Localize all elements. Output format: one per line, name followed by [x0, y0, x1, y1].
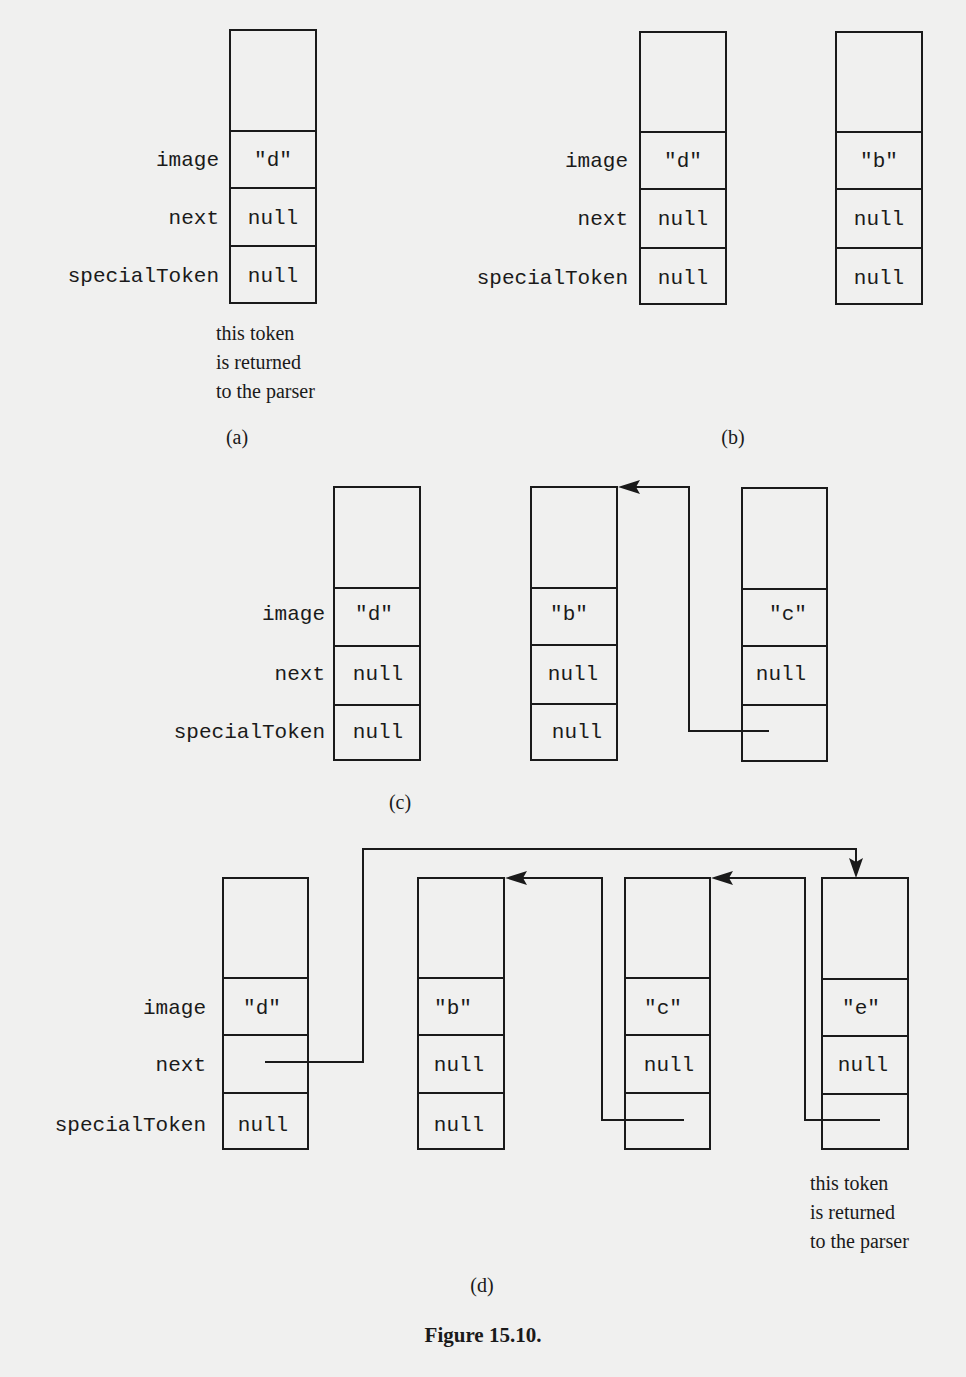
returned-token-note: this token is returned to the parser [216, 322, 315, 403]
token-next-value: null [644, 1054, 694, 1077]
field-label-image: image [262, 603, 325, 626]
field-label-specialtoken: specialToken [55, 1114, 206, 1137]
textbook-page: "d" null null image next specialToken th… [0, 0, 966, 1377]
token-specialtoken-value: null [552, 721, 602, 744]
token-box-c-c: "c" null [742, 488, 827, 761]
field-label-next: next [169, 207, 219, 230]
panel-caption: (d) [470, 1274, 493, 1297]
token-box-a-d: "d" null null [230, 30, 316, 303]
field-label-next: next [578, 208, 628, 231]
token-box-d-b: "b" null null [418, 878, 504, 1149]
token-next-value: null [248, 207, 298, 230]
token-next-value: null [658, 208, 708, 231]
token-specialtoken-value: null [854, 267, 904, 290]
field-label-specialtoken: specialToken [68, 265, 219, 288]
token-box-d-d: "d" null [223, 878, 308, 1149]
token-next-value: null [838, 1054, 888, 1077]
token-specialtoken-value: null [248, 265, 298, 288]
panel-a: "d" null null image next specialToken th… [68, 30, 316, 449]
field-label-specialtoken: specialToken [477, 267, 628, 290]
token-box-c-b: "b" null null [531, 487, 617, 760]
svg-text:this token: this token [810, 1172, 888, 1194]
field-label-next: next [156, 1054, 206, 1077]
svg-text:to the parser: to the parser [810, 1230, 909, 1253]
token-box-b-d: "d" null null [640, 32, 726, 304]
token-chain-diagram: "d" null null image next specialToken th… [0, 0, 966, 1377]
field-label-image: image [156, 149, 219, 172]
specialtoken-link-c-to-b [505, 871, 684, 1120]
panel-d: "d" null "b" null null "c" null "e" nu [55, 849, 909, 1297]
token-next-value: null [756, 663, 806, 686]
token-image-value: "d" [254, 149, 292, 172]
token-image-value: "b" [860, 150, 898, 173]
token-next-value: null [548, 663, 598, 686]
panel-c: "d" null null "b" null null "c" null ima… [174, 480, 827, 814]
token-image-value: "b" [550, 603, 588, 626]
svg-text:to the parser: to the parser [216, 380, 315, 403]
panel-caption: (c) [389, 791, 411, 814]
returned-token-note: this token is returned to the parser [810, 1172, 909, 1253]
svg-text:this token: this token [216, 322, 294, 344]
token-image-value: "d" [664, 150, 702, 173]
token-specialtoken-value: null [353, 721, 403, 744]
token-image-value: "c" [769, 603, 807, 626]
panel-b: "d" null null "b" null null image next s… [477, 32, 922, 449]
field-label-image: image [143, 997, 206, 1020]
token-image-value: "d" [355, 603, 393, 626]
field-label-next: next [275, 663, 325, 686]
svg-text:is returned: is returned [216, 351, 301, 373]
field-label-specialtoken: specialToken [174, 721, 325, 744]
token-box-c-d: "d" null null [334, 487, 420, 760]
token-image-value: "d" [243, 997, 281, 1020]
figure-title: Figure 15.10. [425, 1323, 542, 1347]
field-label-image: image [565, 150, 628, 173]
next-link-d-to-e [265, 849, 863, 1062]
token-box-d-e: "e" null [822, 878, 908, 1149]
token-next-value: null [353, 663, 403, 686]
token-specialtoken-value: null [434, 1114, 484, 1137]
token-specialtoken-value: null [238, 1114, 288, 1137]
token-specialtoken-value: null [658, 267, 708, 290]
token-next-value: null [854, 208, 904, 231]
panel-caption: (a) [226, 426, 248, 449]
specialtoken-link-c-to-b [618, 480, 769, 731]
token-next-value: null [434, 1054, 484, 1077]
panel-caption: (b) [721, 426, 744, 449]
specialtoken-link-e-to-c [711, 871, 880, 1120]
token-image-value: "c" [644, 997, 682, 1020]
token-box-b-b: "b" null null [836, 32, 922, 304]
token-image-value: "e" [842, 997, 880, 1020]
svg-text:is returned: is returned [810, 1201, 895, 1223]
token-box-d-c: "c" null [625, 878, 710, 1149]
token-image-value: "b" [434, 997, 472, 1020]
